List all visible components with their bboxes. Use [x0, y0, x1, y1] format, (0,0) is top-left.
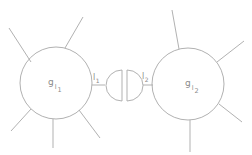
- diagram-canvas: gl1 l1 l2 gl2: [0, 0, 252, 155]
- connector-l1-label: l1: [93, 73, 100, 84]
- vertex-right: gl2: [152, 10, 244, 152]
- cut-right-half-disc: [127, 70, 143, 101]
- vertex-right-label: gl2: [185, 78, 199, 95]
- left-spoke-upper-left: [9, 28, 31, 62]
- vertex-left-label: gl1: [48, 77, 62, 94]
- connector-l1: l1: [92, 73, 105, 85]
- right-spoke-lower-right: [219, 104, 242, 122]
- cut-symbol: [106, 70, 143, 101]
- cut-left-half-disc: [106, 70, 122, 101]
- right-spoke-top: [172, 10, 179, 49]
- right-spoke-upper-right: [217, 41, 244, 62]
- left-spoke-lower-left: [11, 109, 31, 131]
- left-spoke-lower-right: [79, 110, 100, 138]
- vertex-left: gl1: [9, 17, 100, 148]
- connector-l2-label: l2: [142, 72, 149, 83]
- connector-l2: l2: [142, 72, 153, 85]
- left-spoke-upper-right: [65, 17, 83, 48]
